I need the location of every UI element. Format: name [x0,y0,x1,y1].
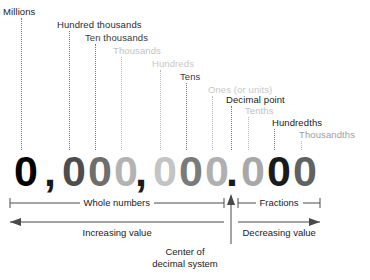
digit-hundredths: 0 [267,148,291,194]
leader-line [95,44,97,150]
place-value-label: Thousands [113,45,161,56]
place-value-label: Hundredths [272,117,322,128]
place-value-label: Tens [180,71,200,82]
center-arrow-head [227,194,235,205]
leader-line [121,57,123,150]
center-caption-line2: decimal system [0,258,370,270]
digit-ten-thousands: 0 [88,148,112,194]
rules-layer [0,0,370,280]
leader-line [212,96,214,150]
digit-tens: 0 [179,148,203,194]
arrow-decreasing-value [238,218,320,226]
bracket-label-whole-numbers: Whole numbers [80,197,155,208]
decimal-point: . [226,148,238,194]
place-value-label: Hundred thousands [57,19,142,30]
leader-line [160,70,162,150]
place-value-label: Decimal point [226,94,285,105]
decimal-number: 0000000000,,. [0,148,370,194]
center-marker-group [227,194,235,244]
arrow-label-decreasing-value: Decreasing value [243,227,316,238]
leader-line [21,18,23,150]
leader-line [231,106,233,150]
leader-line [69,31,71,150]
place-value-label: Ten thousands [85,32,148,43]
arrows-group [10,218,320,226]
place-value-label: Thousandths [299,129,355,140]
place-value-diagram: MillionsHundred thousandsTen thousandsTh… [0,0,370,280]
digit-tenths: 0 [241,148,265,194]
arrow-head [309,218,320,226]
digit-hundreds: 0 [153,148,177,194]
arrow-head [10,218,21,226]
arrow-label-increasing-value: Increasing value [83,227,152,238]
digit-thousandths: 0 [293,148,317,194]
digit-hundred-thousands: 0 [62,148,86,194]
leader-line [248,117,250,150]
digit-millions: 0 [14,148,38,194]
millions-comma: , [135,148,147,194]
leader-line [186,83,188,150]
center-caption: Center of decimal system [0,246,370,269]
bracket-label-fractions: Fractions [256,197,303,208]
place-value-label: Millions [3,6,35,17]
place-value-label: Tenths [245,105,274,116]
place-value-label: Hundreds [152,58,194,69]
center-caption-line1: Center of [0,246,370,258]
arrow-increasing-value [10,218,224,226]
thousands-comma: , [44,148,56,194]
